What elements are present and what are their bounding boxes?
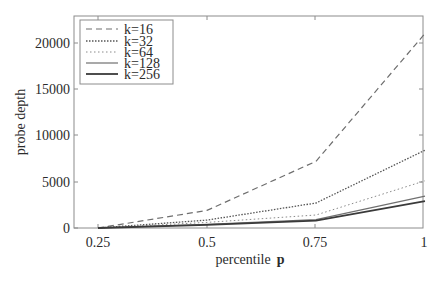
- line-chart: 0 5000 10000 15000 20000 0.25 0.5 0.75 1…: [0, 0, 442, 282]
- series-line-k64: [98, 181, 425, 228]
- series-line-k32: [98, 150, 425, 228]
- legend: k=16 k=32 k=64 k=128 k=256: [80, 20, 173, 84]
- x-tick-label: 0.75: [303, 235, 328, 250]
- legend-label: k=256: [124, 67, 160, 82]
- x-axis-title-symbol: p: [277, 252, 285, 267]
- x-axis-title: percentilep: [216, 252, 285, 267]
- y-axis-title: probe depth: [13, 89, 28, 155]
- y-tick-label: 20000: [35, 36, 70, 51]
- x-tick-label: 0.5: [198, 235, 216, 250]
- y-tick-label: 10000: [35, 128, 70, 143]
- x-tick-label: 1: [421, 235, 428, 250]
- y-tick-label: 5000: [42, 175, 70, 190]
- y-tick-label: 15000: [35, 82, 70, 97]
- y-tick-label: 0: [63, 221, 70, 236]
- x-tick-label: 0.25: [86, 235, 111, 250]
- x-axis-title-text: percentile: [216, 252, 271, 267]
